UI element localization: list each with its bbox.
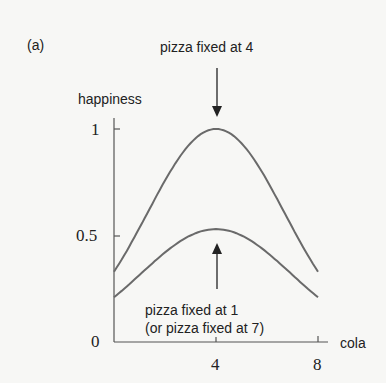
y-tick-label-0: 0 bbox=[91, 332, 100, 351]
curve-pizza-1-or-7 bbox=[114, 229, 318, 297]
annotation-pizza-1-line1: pizza fixed at 1 bbox=[145, 302, 239, 318]
arrow-up-icon bbox=[212, 243, 222, 289]
y-axis-label: happiness bbox=[78, 91, 142, 107]
chart-figure: (a) pizza fixed at 4 happiness cola 1 0.… bbox=[0, 0, 386, 383]
y-tick-label-0.5: 0.5 bbox=[76, 226, 97, 245]
panel-label: (a) bbox=[27, 37, 44, 53]
x-tick-label-4: 4 bbox=[211, 355, 220, 374]
annotation-pizza-4: pizza fixed at 4 bbox=[160, 39, 254, 55]
y-tick-label-1: 1 bbox=[91, 120, 100, 139]
x-axis-label: cola bbox=[340, 335, 366, 351]
arrow-down-icon bbox=[212, 68, 222, 117]
annotation-pizza-1-line2: (or pizza fixed at 7) bbox=[145, 320, 264, 336]
x-tick-label-8: 8 bbox=[313, 355, 322, 374]
